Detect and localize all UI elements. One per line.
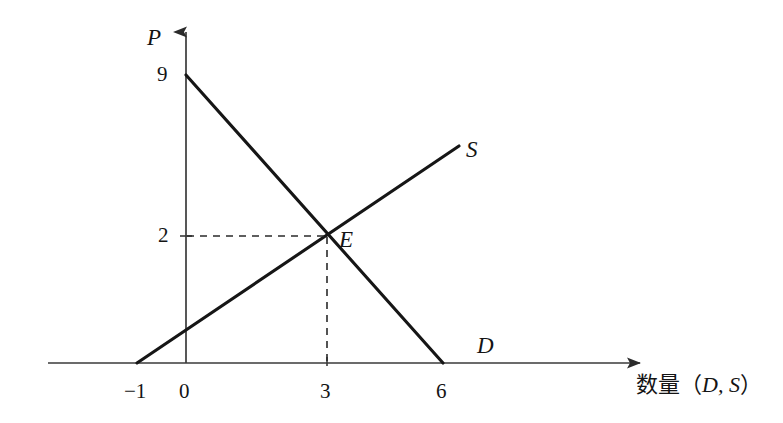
y-axis-label: P xyxy=(147,26,161,49)
x-axis-caption-prefix: 数量 xyxy=(636,372,680,397)
x-axis-caption-paren-close: ） xyxy=(740,372,762,397)
supply-curve-label: S xyxy=(466,138,478,161)
demand-curve-label: D xyxy=(477,334,494,357)
x-axis-caption: 数量（D, S） xyxy=(636,374,762,396)
demand-curve xyxy=(186,75,443,363)
x-axis-caption-paren-open: （ xyxy=(680,372,702,397)
figure-canvas: P 9 2 −1 0 3 6 S D E 数量（D, S） xyxy=(0,0,783,423)
x-tick-label-3: 3 xyxy=(320,381,331,402)
equilibrium-point-label: E xyxy=(339,228,353,251)
y-tick-label-9: 9 xyxy=(157,64,168,85)
x-tick-label-minus-1: −1 xyxy=(124,381,146,402)
y-tick-label-2: 2 xyxy=(158,225,169,246)
supply-demand-chart xyxy=(0,0,783,423)
x-tick-label-6: 6 xyxy=(436,381,447,402)
x-tick-label-0: 0 xyxy=(179,381,190,402)
x-axis-caption-series: D, S xyxy=(702,372,740,397)
